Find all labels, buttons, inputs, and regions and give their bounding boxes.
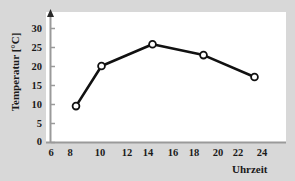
chart-figure: 30 25 20 15 10 5 0 6 8 10 12 14 16 18 20… [0,0,295,181]
x-tick-label: 6 [41,147,61,158]
data-point [73,103,80,110]
y-tick-label: 30 [22,23,42,34]
x-tick-label: 14 [138,147,158,158]
x-tick-label: 20 [208,147,228,158]
y-axis-title: Temperatur [°C] [9,26,21,118]
x-tick-label: 12 [117,147,137,158]
y-tick-label: 10 [22,99,42,110]
y-axis-arrow-icon [47,9,54,17]
data-series-line [76,44,255,106]
x-tick-label: 10 [90,147,110,158]
data-point [200,52,207,59]
y-tick-label: 0 [22,136,42,147]
x-tick-label: 18 [184,147,204,158]
x-tick-label: 24 [252,147,272,158]
data-point [98,63,105,70]
y-tick-marks [51,29,55,143]
x-tick-label: 16 [163,147,183,158]
y-tick-label: 25 [22,42,42,53]
data-point [149,41,156,48]
data-point [251,74,258,81]
x-tick-label: 8 [60,147,80,158]
x-tick-label: 22 [228,147,248,158]
x-axis-title: Uhrzeit [232,163,267,175]
y-tick-label: 15 [22,80,42,91]
y-tick-label: 20 [22,61,42,72]
y-tick-label: 5 [22,118,42,129]
data-point-markers [73,41,258,110]
